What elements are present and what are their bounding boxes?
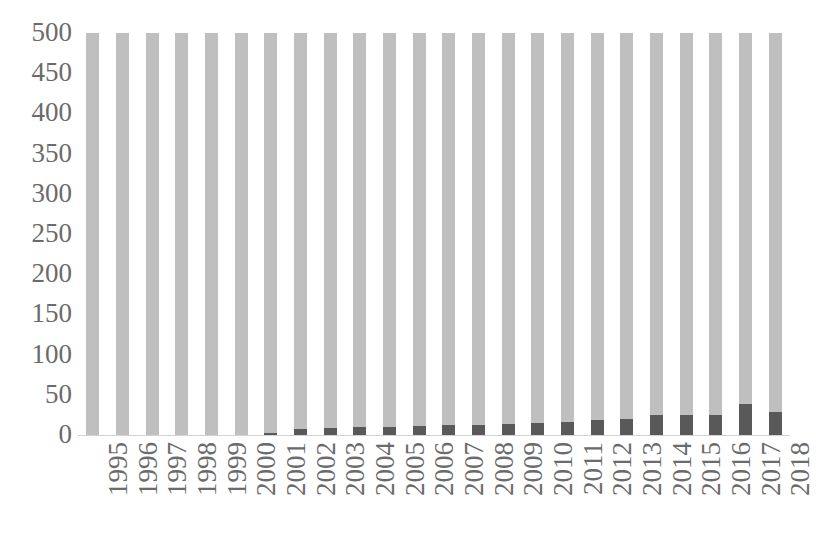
bar-series-1 xyxy=(353,33,366,435)
x-axis-tick-label: 1999 xyxy=(224,442,251,532)
x-axis-tick-label: 2018 xyxy=(787,442,814,532)
x-axis-tick-text: 1996 xyxy=(135,442,162,532)
bar-series-2 xyxy=(413,426,426,435)
bar-group xyxy=(146,33,159,435)
bar-group xyxy=(86,33,99,435)
bar-group xyxy=(175,33,188,435)
x-axis-tick-label: 2004 xyxy=(372,442,399,532)
y-axis-tick-label: 100 xyxy=(0,341,72,368)
bar-series-2 xyxy=(620,419,633,435)
bar-series-1 xyxy=(324,33,337,435)
bar-group xyxy=(205,33,218,435)
plot-area xyxy=(78,33,790,435)
y-axis-tick-label: 300 xyxy=(0,180,72,207)
bar-group xyxy=(739,33,752,435)
x-axis-tick-label: 2007 xyxy=(461,442,488,532)
x-axis-tick-text: 2015 xyxy=(698,442,725,532)
y-axis-tick-label: 450 xyxy=(0,59,72,86)
x-axis-tick-text: 2018 xyxy=(787,442,814,532)
x-axis-tick-text: 2004 xyxy=(372,442,399,532)
y-axis-tick-label: 500 xyxy=(0,19,72,46)
bar-group xyxy=(235,33,248,435)
y-axis-tick-label: 200 xyxy=(0,260,72,287)
bar-series-1 xyxy=(205,33,218,435)
x-axis-tick-text: 2006 xyxy=(431,442,458,532)
x-axis-tick-text: 2001 xyxy=(283,442,310,532)
bar-series-2 xyxy=(591,420,604,435)
bar-series-1 xyxy=(472,33,485,435)
bar-group xyxy=(472,33,485,435)
bar-group xyxy=(264,33,277,435)
x-axis-tick-text: 2013 xyxy=(639,442,666,532)
x-axis-tick-label: 2005 xyxy=(402,442,429,532)
x-axis-tick-text: 2008 xyxy=(491,442,518,532)
x-axis-tick-text: 1999 xyxy=(224,442,251,532)
bar-series-1 xyxy=(235,33,248,435)
x-axis-tick-text: 2016 xyxy=(728,442,755,532)
bar-series-2 xyxy=(353,427,366,435)
x-axis-tick-label: 2017 xyxy=(758,442,785,532)
x-axis-tick-label: 2011 xyxy=(580,442,607,532)
bar-series-2 xyxy=(472,425,485,435)
y-axis: 500450400350300250200150100500 xyxy=(0,0,72,440)
bar-series-1 xyxy=(383,33,396,435)
bar-group xyxy=(294,33,307,435)
bar-series-2 xyxy=(650,415,663,435)
x-axis-tick-text: 2002 xyxy=(313,442,340,532)
bar-group xyxy=(680,33,693,435)
bar-series-1 xyxy=(86,33,99,435)
x-axis-tick-label: 2010 xyxy=(550,442,577,532)
bar-series-1 xyxy=(739,33,752,435)
bar-series-1 xyxy=(264,33,277,435)
bar-group xyxy=(561,33,574,435)
bar-group xyxy=(353,33,366,435)
bar-series-2 xyxy=(739,404,752,435)
bar-group xyxy=(116,33,129,435)
bar-series-1 xyxy=(709,33,722,435)
x-axis-tick-text: 2000 xyxy=(253,442,280,532)
bar-group xyxy=(709,33,722,435)
bar-group xyxy=(591,33,604,435)
bar-series-2 xyxy=(709,415,722,435)
bar-series-2 xyxy=(561,422,574,435)
bar-group xyxy=(769,33,782,435)
x-axis-tick-label: 2015 xyxy=(698,442,725,532)
bar-series-1 xyxy=(680,33,693,435)
x-axis-tick-text: 2014 xyxy=(669,442,696,532)
x-axis-tick-label: 2002 xyxy=(313,442,340,532)
bar-series-1 xyxy=(502,33,515,435)
bar-group xyxy=(413,33,426,435)
bar-series-2 xyxy=(769,412,782,435)
x-axis-tick-text: 2011 xyxy=(580,442,607,532)
bar-series-2 xyxy=(502,424,515,435)
bar-group xyxy=(502,33,515,435)
y-axis-tick-label: 150 xyxy=(0,300,72,327)
bar-group xyxy=(531,33,544,435)
bar-series-1 xyxy=(175,33,188,435)
x-axis-tick-text: 2010 xyxy=(550,442,577,532)
bar-group xyxy=(442,33,455,435)
y-axis-tick-label: 350 xyxy=(0,140,72,167)
x-axis-tick-text: 2017 xyxy=(758,442,785,532)
x-axis-tick-label: 2001 xyxy=(283,442,310,532)
x-axis-tick-label: 2008 xyxy=(491,442,518,532)
x-axis-tick-label: 2012 xyxy=(609,442,636,532)
x-axis-tick-label: 2000 xyxy=(253,442,280,532)
bar-series-2 xyxy=(383,427,396,435)
bar-group xyxy=(324,33,337,435)
bar-series-1 xyxy=(116,33,129,435)
bar-series-2 xyxy=(680,415,693,435)
x-axis-tick-label: 1996 xyxy=(135,442,162,532)
x-axis-tick-label: 2009 xyxy=(520,442,547,532)
x-axis-tick-label: 2014 xyxy=(669,442,696,532)
x-axis-baseline xyxy=(78,435,790,436)
x-axis-tick-label: 2006 xyxy=(431,442,458,532)
bar-series-1 xyxy=(620,33,633,435)
bar-group xyxy=(650,33,663,435)
bar-group xyxy=(383,33,396,435)
x-axis-tick-text: 1997 xyxy=(164,442,191,532)
x-axis-tick-text: 2007 xyxy=(461,442,488,532)
bar-series-2 xyxy=(324,428,337,435)
bar-series-1 xyxy=(561,33,574,435)
bar-series-1 xyxy=(413,33,426,435)
